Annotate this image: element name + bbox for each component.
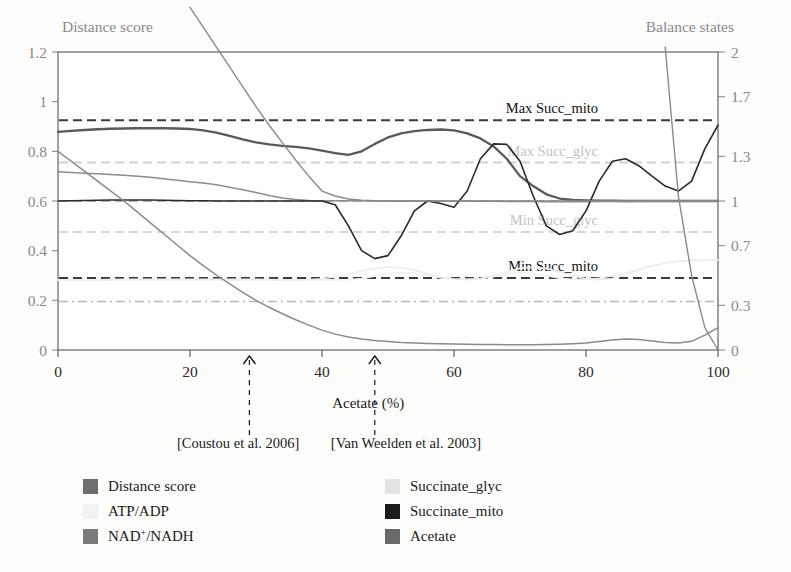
left-axis-title: Distance score bbox=[62, 18, 153, 35]
x-tick-label-80: 80 bbox=[578, 363, 594, 380]
right-axis-title: Balance states bbox=[646, 18, 734, 35]
left-tick-label-0p4: 0.4 bbox=[28, 242, 48, 259]
figure-root: Max Succ_mitoMax Succ_glycMin Succ_glycM… bbox=[0, 0, 791, 572]
legend-label-nad-nadh: NAD+/NADH bbox=[108, 527, 194, 544]
left-tick-label-1p2: 1.2 bbox=[28, 44, 47, 61]
right-tick-label-1p3: 1.3 bbox=[731, 148, 751, 165]
refline-label-min-succ-mito: Min Succ_mito bbox=[508, 258, 598, 274]
refline-label-max-succ-mito: Max Succ_mito bbox=[506, 100, 598, 116]
left-tick-label-0p6: 0.6 bbox=[28, 193, 48, 210]
x-tick-label-100: 100 bbox=[706, 363, 730, 380]
legend-label-succinate-mito: Succinate_mito bbox=[410, 503, 503, 519]
refline-label-max-succ-glyc: Max Succ_glyc bbox=[507, 143, 598, 159]
annotation-label-coustou: [Coustou et al. 2006] bbox=[177, 435, 299, 451]
right-tick-label-2: 2 bbox=[731, 44, 739, 61]
x-tick-label-0: 0 bbox=[54, 363, 62, 380]
legend-label-succinate-glyc: Succinate_glyc bbox=[410, 478, 502, 494]
right-tick-label-0p3: 0.3 bbox=[731, 297, 751, 314]
legend-swatch-distance-score bbox=[83, 479, 98, 494]
legend-swatch-succinate-mito bbox=[385, 504, 400, 519]
legend-swatch-succinate-glyc bbox=[385, 479, 400, 494]
right-tick-label-1p7: 1.7 bbox=[731, 88, 751, 105]
refline-label-min-succ-glyc: Min Succ_glyc bbox=[510, 212, 598, 228]
left-tick-label-0: 0 bbox=[39, 342, 47, 359]
legend-swatch-acetate bbox=[385, 529, 400, 544]
left-tick-label-1: 1 bbox=[39, 93, 47, 110]
x-tick-label-60: 60 bbox=[446, 363, 462, 380]
x-axis-title: Acetate (%) bbox=[332, 395, 404, 412]
x-tick-label-20: 20 bbox=[182, 363, 198, 380]
left-tick-label-0p2: 0.2 bbox=[28, 292, 47, 309]
legend-swatch-atp-adp bbox=[83, 504, 98, 519]
legend-label-distance-score: Distance score bbox=[108, 478, 196, 494]
right-tick-label-1: 1 bbox=[731, 193, 739, 210]
left-tick-label-0p8: 0.8 bbox=[28, 143, 48, 160]
legend-swatch-nad-nadh bbox=[83, 529, 98, 544]
legend-label-acetate: Acetate bbox=[410, 528, 456, 544]
x-tick-label-40: 40 bbox=[314, 363, 330, 380]
right-tick-label-0p7: 0.7 bbox=[731, 237, 751, 254]
chart-canvas: Max Succ_mitoMax Succ_glycMin Succ_glycM… bbox=[0, 0, 791, 572]
legend-label-atp-adp: ATP/ADP bbox=[108, 503, 169, 519]
annotation-label-vanweelden: [Van Weelden et al. 2003] bbox=[331, 435, 481, 451]
right-tick-label-0: 0 bbox=[731, 342, 739, 359]
